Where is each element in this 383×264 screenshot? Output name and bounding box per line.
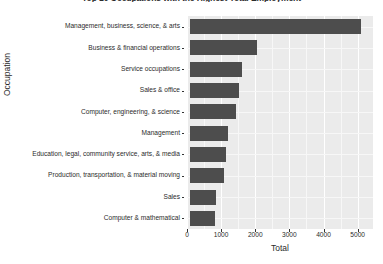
y-axis-tick-label: Education, legal, community service, art… — [32, 151, 184, 158]
bar-chart: Top 10 Occupations with the Highest Tota… — [0, 0, 383, 264]
y-axis-tick-label: Business & financial operations — [88, 45, 184, 52]
bar[interactable] — [190, 62, 242, 77]
bar-row — [187, 59, 373, 80]
bar-row — [187, 144, 373, 165]
bar[interactable] — [190, 211, 215, 226]
bar[interactable] — [190, 19, 361, 34]
chart-title: Top 10 Occupations with the Highest Tota… — [0, 0, 383, 2]
y-axis-tick-label: Service occupations — [121, 66, 184, 73]
bar-row — [187, 208, 373, 229]
bar-row — [187, 165, 373, 186]
y-axis-tick-label: Computer & mathematical — [104, 215, 184, 222]
x-axis-tick-label: 4000 — [316, 232, 331, 239]
x-axis-tick-label: 0 — [185, 232, 189, 239]
bar-row — [187, 186, 373, 207]
y-axis-tick-mark — [182, 69, 185, 70]
bar[interactable] — [190, 83, 239, 98]
y-axis-tick-mark — [182, 27, 185, 28]
y-axis-tick-label: Production, transportation, & material m… — [48, 172, 184, 179]
y-axis-tick-mark — [182, 133, 185, 134]
bar[interactable] — [190, 126, 228, 141]
y-axis-tick-label: Management, business, science, & arts — [65, 23, 184, 30]
y-axis-tick-labels: Management, business, science, & artsBus… — [12, 16, 184, 229]
y-axis-tick-label: Management — [142, 130, 185, 137]
bar-row — [187, 101, 373, 122]
bars-layer — [187, 16, 373, 229]
y-axis-tick-mark — [182, 218, 185, 219]
y-axis-tick: Business & financial operations — [12, 37, 184, 58]
y-axis-title: Occupation — [2, 53, 12, 96]
x-axis-tick-label: 1000 — [214, 232, 229, 239]
y-axis-tick: Service occupations — [12, 59, 184, 80]
y-axis-tick: Sales — [12, 186, 184, 207]
y-axis-tick-mark — [182, 176, 185, 177]
bar-row — [187, 122, 373, 143]
y-axis-tick-mark — [182, 154, 185, 155]
y-axis-tick-label: Computer, engineering, & science — [81, 109, 184, 116]
y-axis-tick: Production, transportation, & material m… — [12, 165, 184, 186]
bar-row — [187, 80, 373, 101]
plot-panel — [187, 16, 373, 229]
y-axis-tick: Management, business, science, & arts — [12, 16, 184, 37]
x-axis-tick-label: 2000 — [248, 232, 263, 239]
y-axis-tick-label: Sales & office — [140, 87, 184, 94]
y-axis-tick: Sales & office — [12, 80, 184, 101]
x-axis: 010002000300040005000 — [187, 229, 373, 243]
x-axis-title: Total — [187, 243, 373, 253]
x-axis-tick-label: 3000 — [282, 232, 297, 239]
bar-row — [187, 16, 373, 37]
y-axis-tick: Management — [12, 122, 184, 143]
y-axis-tick-mark — [182, 197, 185, 198]
y-axis-tick-mark — [182, 91, 185, 92]
bar[interactable] — [190, 40, 257, 55]
bar[interactable] — [190, 190, 216, 205]
bar[interactable] — [190, 104, 236, 119]
x-axis-tick-label: 5000 — [350, 232, 365, 239]
y-axis-tick: Computer & mathematical — [12, 208, 184, 229]
y-axis-tick: Education, legal, community service, art… — [12, 144, 184, 165]
y-axis-tick: Computer, engineering, & science — [12, 101, 184, 122]
bar[interactable] — [190, 168, 224, 183]
bar-row — [187, 37, 373, 58]
bar[interactable] — [190, 147, 226, 162]
y-axis-tick-mark — [182, 48, 185, 49]
y-axis-tick-mark — [182, 112, 185, 113]
